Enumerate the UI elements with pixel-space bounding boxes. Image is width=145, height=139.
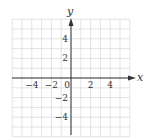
x-tick-label: −4 bbox=[25, 80, 39, 90]
x-tick-label: 2 bbox=[88, 80, 94, 90]
x-axis-label: x bbox=[137, 71, 144, 84]
x-tick-label: 0 bbox=[64, 80, 70, 90]
y-tick-label: 4 bbox=[62, 34, 68, 44]
x-tick-label: −2 bbox=[45, 80, 58, 90]
x-axis-arrow-icon bbox=[128, 76, 136, 81]
coordinate-plane: x y −4−2024 42−2−4 bbox=[0, 0, 145, 139]
y-axis-label: y bbox=[66, 5, 74, 18]
x-tick-label: 4 bbox=[107, 80, 113, 90]
y-tick-label: 2 bbox=[62, 53, 68, 63]
y-tick-label: −4 bbox=[55, 112, 69, 122]
y-tick-label: −2 bbox=[55, 93, 68, 103]
